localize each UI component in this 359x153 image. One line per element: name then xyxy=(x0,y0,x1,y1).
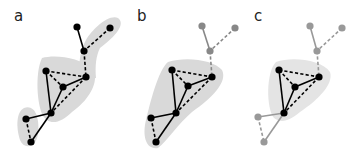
graph-node xyxy=(280,109,287,116)
graph-node xyxy=(198,22,205,29)
graph-node xyxy=(291,83,298,90)
graph-node xyxy=(106,24,113,31)
graph-node xyxy=(315,73,322,80)
solid-edge xyxy=(310,26,317,51)
graph-node xyxy=(184,82,191,89)
graph-node xyxy=(168,66,175,73)
graph-node xyxy=(73,23,80,30)
panel-b: b xyxy=(137,7,239,148)
graph-node xyxy=(260,138,267,145)
solid-edge xyxy=(202,26,210,51)
graph-node xyxy=(147,114,154,121)
solid-edge xyxy=(77,27,84,51)
dashed-edge xyxy=(210,28,235,51)
graph-node xyxy=(206,47,213,54)
panel-a: a xyxy=(14,7,121,146)
graph-node xyxy=(313,47,320,54)
panel-c: c xyxy=(254,7,346,146)
graph-node xyxy=(338,24,345,31)
panel-label-b: b xyxy=(137,7,147,25)
graph-node xyxy=(59,83,66,90)
graph-node xyxy=(208,73,215,80)
panel-label-c: c xyxy=(254,7,262,25)
dashed-edge xyxy=(317,28,342,51)
graph-node xyxy=(42,67,49,74)
graph-node xyxy=(80,47,87,54)
graph-node xyxy=(22,115,29,122)
graph-node xyxy=(306,22,313,29)
highlight-region-core xyxy=(38,56,96,122)
graph-node xyxy=(275,66,282,73)
graph-node xyxy=(47,109,54,116)
graph-node xyxy=(231,24,238,31)
graph-node xyxy=(27,138,34,145)
graph-node xyxy=(152,138,159,145)
network-figure: a b c xyxy=(0,0,359,153)
graph-node xyxy=(172,109,179,116)
panel-label-a: a xyxy=(14,7,23,25)
graph-node xyxy=(82,73,89,80)
graph-node xyxy=(254,113,261,120)
dashed-edge xyxy=(258,117,264,142)
